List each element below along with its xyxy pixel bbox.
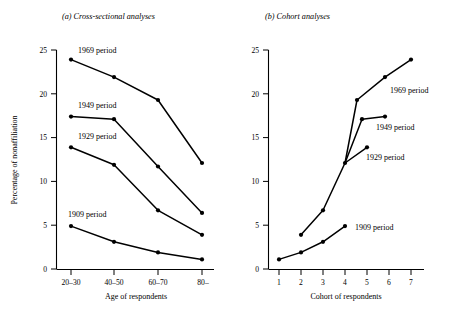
panel-a-ylabel-25: 25 bbox=[39, 46, 47, 55]
panel-b-xlabel-7: 7 bbox=[409, 278, 413, 287]
panel-b-xlabel-2: 2 bbox=[299, 278, 303, 287]
panel-a-point-1929-3 bbox=[156, 208, 160, 212]
panel-a-point-1909-1 bbox=[69, 224, 73, 228]
panel-b: (b) Cohort analyses 25 20 15 10 5 0 bbox=[251, 12, 428, 301]
panel-b-line-1909 bbox=[279, 226, 345, 259]
panel-a-point-1909-4 bbox=[200, 257, 204, 261]
panel-b-series-label-1949: 1949 period bbox=[376, 123, 414, 132]
panel-a-series-label-1909: 1909 period bbox=[68, 210, 106, 219]
panel-b-x-axis-title: Cohort of respondents bbox=[310, 292, 381, 301]
panel-b-point-1909-2 bbox=[299, 250, 303, 254]
panel-b-ylabel-10: 10 bbox=[251, 177, 259, 186]
panel-a-xlabel-20-30: 20–30 bbox=[62, 278, 81, 287]
panel-a-ylabel-0: 0 bbox=[43, 265, 47, 274]
panel-b-point-1969-b bbox=[383, 75, 387, 79]
panel-a: (a) Cross-sectional analyses 25 20 15 10… bbox=[10, 12, 214, 301]
panel-b-ylabel-20: 20 bbox=[251, 90, 259, 99]
panel-a-point-1949-4 bbox=[200, 211, 204, 215]
panel-a-point-1909-2 bbox=[112, 240, 116, 244]
panel-a-point-1949-1 bbox=[69, 115, 73, 119]
panel-b-line-1929-rise bbox=[301, 163, 345, 235]
panel-a-point-1969-4 bbox=[200, 161, 204, 165]
panel-a-ylabel-20: 20 bbox=[39, 90, 47, 99]
panel-b-xlabel-5: 5 bbox=[365, 278, 369, 287]
panel-b-point-1909-3 bbox=[321, 240, 325, 244]
panel-b-point-1969-c bbox=[409, 58, 413, 62]
y-axis-title: Percentage of nonaffiliation bbox=[10, 115, 19, 204]
panel-a-xlabel-40-50: 40–50 bbox=[105, 278, 124, 287]
panel-a-series-label-1949: 1949 period bbox=[78, 101, 116, 110]
panel-b-xlabel-1: 1 bbox=[277, 278, 281, 287]
panel-b-series-label-1969: 1969 period bbox=[390, 86, 428, 95]
panel-b-xlabel-3: 3 bbox=[321, 278, 325, 287]
panel-b-point-1949-a bbox=[360, 117, 364, 121]
panel-a-ylabel-15: 15 bbox=[39, 133, 47, 142]
two-panel-line-chart: (a) Cross-sectional analyses 25 20 15 10… bbox=[0, 0, 453, 314]
panel-a-point-1969-1 bbox=[69, 58, 73, 62]
panel-b-title: (b) Cohort analyses bbox=[265, 12, 330, 21]
panel-a-xlabel-60-70: 60–70 bbox=[149, 278, 168, 287]
panel-a-x-axis-title: Age of respondents bbox=[105, 292, 167, 301]
panel-b-series-label-1929: 1929 period bbox=[366, 153, 404, 162]
panel-a-series-label-1929: 1929 period bbox=[78, 132, 116, 141]
panel-a-point-1949-3 bbox=[156, 164, 160, 168]
panel-b-series-label-1909: 1909 period bbox=[355, 223, 393, 232]
panel-a-point-1969-2 bbox=[112, 75, 116, 79]
panel-a-ylabel-10: 10 bbox=[39, 177, 47, 186]
panel-a-line-1969 bbox=[71, 60, 202, 163]
panel-b-ylabel-15: 15 bbox=[251, 133, 259, 142]
panel-a-point-1949-2 bbox=[112, 117, 116, 121]
panel-a-point-1929-4 bbox=[200, 233, 204, 237]
panel-b-ylabel-5: 5 bbox=[255, 221, 259, 230]
panel-a-point-1929-1 bbox=[69, 145, 73, 149]
panel-a-line-1909 bbox=[71, 226, 202, 259]
panel-a-point-1969-3 bbox=[156, 98, 160, 102]
panel-a-line-1929 bbox=[71, 147, 202, 235]
panel-b-point-1909-1 bbox=[277, 257, 281, 261]
panel-a-point-1929-2 bbox=[112, 163, 116, 167]
panel-b-ylabel-0: 0 bbox=[255, 265, 259, 274]
panel-b-point-1929-5 bbox=[365, 145, 369, 149]
panel-a-title: (a) Cross-sectional analyses bbox=[62, 12, 155, 21]
panel-b-point-1949-b bbox=[383, 115, 387, 119]
panel-a-xlabel-80-plus: 80– bbox=[197, 278, 209, 287]
panel-b-xlabel-4: 4 bbox=[343, 278, 347, 287]
panel-b-point-1969-a bbox=[355, 98, 359, 102]
panel-b-point-rise-2 bbox=[299, 233, 303, 237]
panel-b-point-rise-3 bbox=[321, 208, 325, 212]
panel-a-ylabel-5: 5 bbox=[43, 221, 47, 230]
figure-container: (a) Cross-sectional analyses 25 20 15 10… bbox=[0, 0, 453, 314]
panel-b-xlabel-6: 6 bbox=[387, 278, 391, 287]
panel-a-point-1909-3 bbox=[156, 250, 160, 254]
panel-b-ylabel-25: 25 bbox=[251, 46, 259, 55]
panel-b-line-1969 bbox=[345, 60, 411, 163]
panel-b-point-1909-4 bbox=[343, 224, 347, 228]
panel-a-series-label-1969: 1969 period bbox=[78, 46, 116, 55]
